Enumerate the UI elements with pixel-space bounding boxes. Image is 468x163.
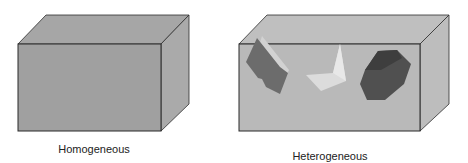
homogeneous-front-face bbox=[18, 44, 161, 131]
homogeneous-box bbox=[18, 15, 189, 131]
heterogeneous-box bbox=[239, 15, 449, 131]
homogeneous-top-face bbox=[18, 15, 189, 44]
homogeneous-label: Homogeneous bbox=[58, 143, 130, 155]
heterogeneous-top-face bbox=[239, 15, 449, 44]
diagram-canvas bbox=[0, 0, 468, 163]
heterogeneous-label: Heterogeneous bbox=[292, 150, 367, 162]
